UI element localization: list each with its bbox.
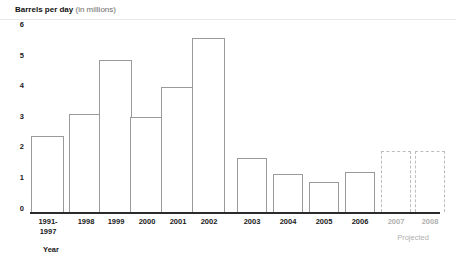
y-tick-label: 2 xyxy=(8,143,24,151)
x-tick-label-2008: 2008 xyxy=(408,217,452,227)
x-tick-label-2002: 2002 xyxy=(187,217,231,227)
bar-2003 xyxy=(237,158,267,212)
y-tick-label: 5 xyxy=(8,52,24,60)
bar-2002 xyxy=(192,38,225,212)
bar-2005 xyxy=(309,182,339,212)
y-tick-label: 0 xyxy=(8,205,24,213)
plot-area: 6 5 4 3 2 1 0 1991- 1997 1998 1999 2000 … xyxy=(0,0,456,271)
bar-2000 xyxy=(130,117,163,212)
bar-1999 xyxy=(99,60,132,212)
x-axis-title: Year xyxy=(29,245,73,254)
x-axis-line xyxy=(30,212,440,214)
projected-note: Projected xyxy=(374,233,452,242)
bar-1991-1997 xyxy=(31,136,64,212)
y-tick-label: 3 xyxy=(8,113,24,121)
y-tick-label: 1 xyxy=(8,174,24,182)
y-tick-label: 6 xyxy=(8,21,24,29)
bar-2001 xyxy=(161,87,194,212)
y-tick-label: 4 xyxy=(8,82,24,90)
bar-chart: Barrels per day (in millions) 6 5 4 3 2 … xyxy=(0,0,456,271)
bar-1998 xyxy=(69,114,102,212)
bar-2004 xyxy=(273,174,303,212)
bar-2007-projected xyxy=(381,151,411,212)
bar-2008-projected xyxy=(415,151,445,212)
bar-2006 xyxy=(345,172,375,212)
